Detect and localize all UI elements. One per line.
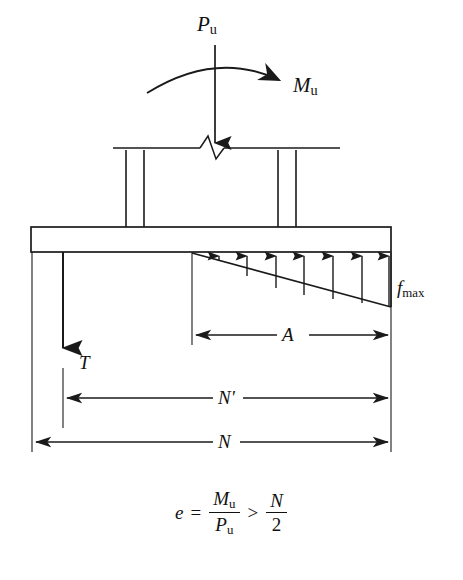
column-section xyxy=(113,136,340,227)
fraction-numerator: N xyxy=(266,489,287,512)
axial-load-label: Pu xyxy=(197,14,217,36)
fraction-numerator: Mu xyxy=(209,487,239,512)
fraction-denominator: Pu xyxy=(211,513,237,538)
bearing-stress-distribution xyxy=(192,253,391,307)
moment-arc-arrow xyxy=(147,68,279,93)
base-plate xyxy=(31,227,391,252)
fraction-denominator: 2 xyxy=(268,513,286,536)
anchor-to-edge-label: N' xyxy=(218,388,235,407)
eccentricity-equation: e = Mu Pu > N 2 xyxy=(0,487,463,539)
moment-over-load-fraction: Mu Pu xyxy=(209,487,239,539)
moment-label: Mu xyxy=(293,75,318,97)
figure-container: Pu Mu fmax T A N' N e = Mu Pu > N 2 xyxy=(0,0,463,580)
half-plate-length-fraction: N 2 xyxy=(266,489,287,537)
max-bearing-stress-label: fmax xyxy=(397,278,425,300)
equation-equals: = xyxy=(189,502,204,524)
equation-lhs: e xyxy=(175,502,183,524)
plate-length-label: N xyxy=(218,432,231,451)
bearing-length-label: A xyxy=(282,325,294,344)
equation-relation: > xyxy=(246,502,261,524)
tension-label: T xyxy=(79,353,90,372)
